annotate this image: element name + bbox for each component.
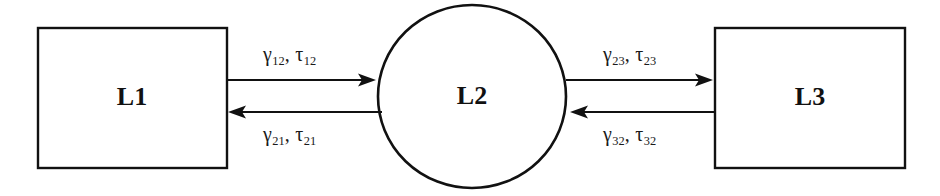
edge-label-l2-to-l3: γ23,τ23 xyxy=(603,44,656,64)
edge-label-gamma: γ12 xyxy=(263,43,285,65)
edge-label-tau: τ21 xyxy=(295,123,316,145)
edge-label-gamma-sub: 32 xyxy=(612,134,624,148)
edge-label-l1-to-l2: γ12,τ12 xyxy=(263,44,316,64)
diagram-canvas: L1 L2 L3 γ12,τ12 γ21,τ21 xyxy=(0,0,940,196)
edge-label-l3-to-l2: γ32,τ32 xyxy=(603,124,656,144)
edge-label-gamma: γ32 xyxy=(603,123,625,145)
edge-label-separator: , xyxy=(625,123,631,145)
edge-label-tau: τ32 xyxy=(635,123,656,145)
edge-label-tau-sub: 23 xyxy=(644,54,656,68)
edge-label-tau: τ23 xyxy=(635,43,656,65)
edge-label-separator: , xyxy=(285,43,291,65)
node-l3-label: L3 xyxy=(795,82,825,111)
edge-label-tau-sub: 12 xyxy=(304,54,316,68)
edge-label-tau-sub: 21 xyxy=(304,134,316,148)
edge-l2-to-l3[interactable] xyxy=(566,74,713,87)
diagram-svg: L1 L2 L3 xyxy=(0,0,940,196)
node-l2-label: L2 xyxy=(457,81,487,110)
edge-label-gamma: γ21 xyxy=(263,123,285,145)
edge-l3-to-l2[interactable] xyxy=(570,106,715,119)
edge-label-gamma-sub: 12 xyxy=(272,54,284,68)
edge-l1-to-l2[interactable] xyxy=(228,74,376,87)
edge-label-separator: , xyxy=(285,123,291,145)
node-l1-label: L1 xyxy=(117,82,147,111)
edge-label-gamma-sub: 23 xyxy=(612,54,624,68)
edge-label-tau: τ12 xyxy=(295,43,316,65)
edge-label-gamma-sub: 21 xyxy=(272,134,284,148)
edge-label-gamma: γ23 xyxy=(603,43,625,65)
edge-l2-to-l1[interactable] xyxy=(228,106,382,119)
edge-label-separator: , xyxy=(625,43,631,65)
edge-label-l2-to-l1: γ21,τ21 xyxy=(263,124,316,144)
edge-label-tau-sub: 32 xyxy=(644,134,656,148)
